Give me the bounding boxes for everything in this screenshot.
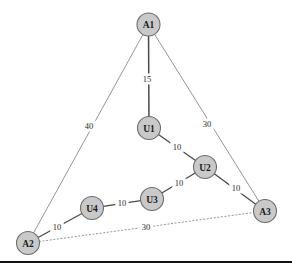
- node-a3[interactable]: A3: [254, 200, 277, 223]
- node-label-a3: A3: [259, 207, 271, 217]
- node-label-u2: U2: [199, 163, 211, 173]
- node-u1[interactable]: U1: [138, 117, 161, 140]
- edge-weight-label-a1-a3: 30: [203, 119, 212, 129]
- edge-weight-label-u4-u3: 10: [118, 198, 127, 208]
- figure-container: 154030101010101030 A1U1U2U3U4A2A3: [0, 0, 292, 267]
- node-u4[interactable]: U4: [81, 197, 104, 220]
- edge-weight-label-a2-u4: 10: [53, 222, 62, 232]
- node-u3[interactable]: U3: [141, 188, 164, 211]
- node-label-u4: U4: [86, 204, 98, 214]
- bottom-horizontal-rule: [0, 261, 292, 263]
- node-label-u3: U3: [146, 195, 158, 205]
- node-a2[interactable]: A2: [17, 232, 40, 255]
- graph-canvas: 154030101010101030 A1U1U2U3U4A2A3: [0, 0, 292, 267]
- edge-weight-label-u2-a3: 10: [232, 183, 241, 193]
- node-label-u1: U1: [143, 124, 155, 134]
- edge-weight-label-a2-a3: 30: [142, 222, 151, 232]
- node-u2[interactable]: U2: [194, 156, 217, 179]
- node-label-a1: A1: [143, 20, 155, 30]
- edge-weight-label-a1-a2: 40: [85, 121, 94, 131]
- node-a1[interactable]: A1: [137, 13, 160, 36]
- edge-weight-label-a1-u1: 15: [143, 74, 152, 84]
- edge-weight-label-u3-u2: 10: [175, 178, 184, 188]
- node-label-a2: A2: [22, 239, 34, 249]
- nodes-layer: A1U1U2U3U4A2A3: [17, 13, 277, 255]
- edge-weight-label-u1-u2: 10: [173, 142, 182, 152]
